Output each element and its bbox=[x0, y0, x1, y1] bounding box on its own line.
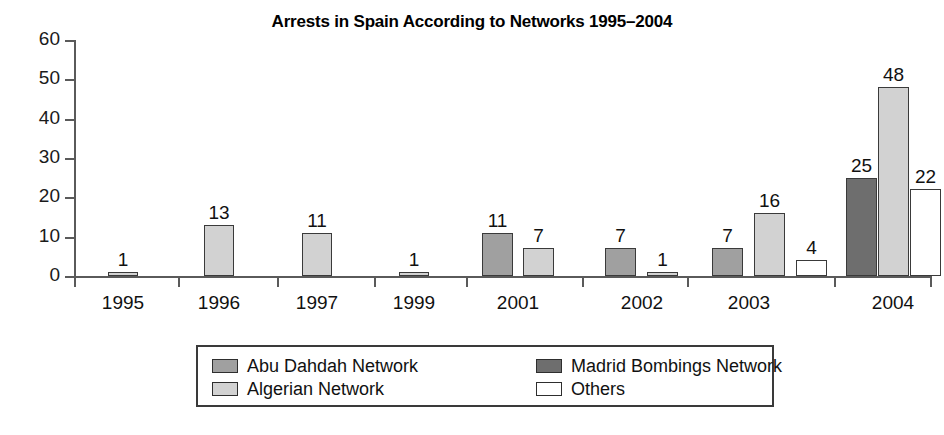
y-axis-tick-label: 20 bbox=[39, 186, 60, 206]
y-axis-tick-label: 10 bbox=[39, 226, 60, 246]
x-axis-category-label: 2002 bbox=[597, 292, 687, 314]
x-axis-tick bbox=[466, 276, 468, 287]
bar: 16 bbox=[754, 213, 785, 276]
bar-value-label: 1 bbox=[657, 250, 668, 270]
x-axis-category-label: 1997 bbox=[272, 292, 362, 314]
bar-value-label: 1 bbox=[409, 250, 420, 270]
x-axis-tick bbox=[930, 276, 932, 287]
bar-value-label: 7 bbox=[533, 226, 544, 246]
x-axis-tick bbox=[277, 276, 279, 287]
bar-value-label: 4 bbox=[806, 238, 817, 258]
legend-swatch bbox=[536, 382, 562, 396]
bar: 7 bbox=[523, 248, 554, 276]
y-axis-tick: 40 bbox=[65, 119, 74, 121]
legend-label: Abu Dahdah Network bbox=[247, 356, 418, 376]
y-axis-tick: 50 bbox=[65, 79, 74, 81]
bar-value-label: 22 bbox=[915, 167, 936, 187]
x-axis-tick bbox=[687, 276, 689, 287]
bar-value-label: 1 bbox=[118, 250, 129, 270]
legend-grid: Abu Dahdah NetworkMadrid Bombings Networ… bbox=[212, 354, 762, 400]
bar: 13 bbox=[204, 225, 234, 276]
x-axis-tick bbox=[178, 276, 180, 287]
y-axis-tick: 60 bbox=[65, 40, 74, 42]
plot-area: 0102030405060 113111117717164254822 1995… bbox=[74, 40, 930, 276]
bar: 11 bbox=[482, 233, 513, 276]
y-axis-tick: 0 bbox=[65, 276, 74, 278]
bar: 1 bbox=[108, 272, 138, 276]
bar-chart-figure: Arrests in Spain According to Networks 1… bbox=[0, 0, 944, 435]
bar: 48 bbox=[878, 87, 909, 276]
bar: 4 bbox=[796, 260, 827, 276]
bar: 7 bbox=[605, 248, 636, 276]
x-axis-category-label: 1999 bbox=[369, 292, 459, 314]
bar: 1 bbox=[399, 272, 429, 276]
legend-swatch bbox=[536, 359, 562, 373]
x-axis-tick bbox=[74, 276, 76, 287]
x-axis-tick bbox=[834, 276, 836, 287]
y-axis-tick: 10 bbox=[65, 237, 74, 239]
x-axis-tick bbox=[582, 276, 584, 287]
bar: 22 bbox=[910, 189, 941, 276]
x-axis-tick bbox=[374, 276, 376, 287]
legend-item: Madrid Bombings Network bbox=[536, 356, 762, 376]
bar-value-label: 25 bbox=[851, 156, 872, 176]
legend-item: Others bbox=[536, 379, 762, 399]
chart-legend: Abu Dahdah NetworkMadrid Bombings Networ… bbox=[196, 345, 774, 407]
bar: 1 bbox=[647, 272, 678, 276]
legend-label: Others bbox=[571, 379, 625, 399]
bar-value-label: 13 bbox=[208, 203, 229, 223]
legend-label: Algerian Network bbox=[247, 379, 384, 399]
y-axis-tick: 30 bbox=[65, 158, 74, 160]
legend-swatch bbox=[212, 359, 238, 373]
legend-label: Madrid Bombings Network bbox=[571, 356, 782, 376]
x-axis-category-label: 2003 bbox=[704, 292, 794, 314]
x-axis-category-label: 1995 bbox=[78, 292, 168, 314]
bar-value-label: 7 bbox=[722, 226, 733, 246]
legend-item: Abu Dahdah Network bbox=[212, 356, 536, 376]
x-axis-category-label: 2001 bbox=[473, 292, 563, 314]
legend-item: Algerian Network bbox=[212, 379, 536, 399]
y-axis-tick-label: 0 bbox=[49, 265, 60, 285]
legend-swatch bbox=[212, 382, 238, 396]
bar: 11 bbox=[302, 233, 332, 276]
y-axis-tick-label: 60 bbox=[39, 29, 60, 49]
bar: 25 bbox=[846, 178, 877, 276]
bar: 7 bbox=[712, 248, 743, 276]
x-axis-line bbox=[74, 276, 930, 278]
x-axis-category-label: 2004 bbox=[848, 292, 938, 314]
y-axis-tick-label: 50 bbox=[39, 68, 60, 88]
y-axis-line bbox=[74, 40, 76, 276]
chart-title: Arrests in Spain According to Networks 1… bbox=[0, 12, 944, 32]
bar-value-label: 48 bbox=[883, 65, 904, 85]
y-axis-tick-label: 40 bbox=[39, 108, 60, 128]
y-axis-tick: 20 bbox=[65, 197, 74, 199]
bar-value-label: 7 bbox=[615, 226, 626, 246]
x-axis-category-label: 1996 bbox=[174, 292, 264, 314]
bar-value-label: 16 bbox=[759, 191, 780, 211]
bar-value-label: 11 bbox=[488, 211, 508, 231]
bar-value-label: 11 bbox=[307, 211, 327, 231]
y-axis-tick-label: 30 bbox=[39, 147, 60, 167]
